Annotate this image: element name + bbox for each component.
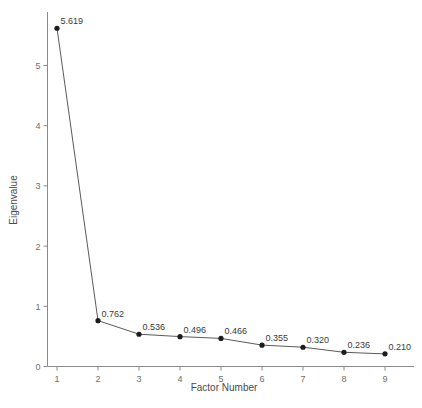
data-point-label: 0.466 [225, 326, 248, 336]
y-tick-label: 2 [35, 242, 40, 252]
x-tick-label: 7 [300, 374, 305, 384]
data-point-label: 0.236 [348, 340, 371, 350]
x-tick-label: 2 [95, 374, 100, 384]
data-point-marker [300, 345, 305, 350]
data-point-label: 5.619 [61, 16, 84, 26]
data-point-marker [259, 343, 264, 348]
x-tick-label: 4 [177, 374, 182, 384]
scree-plot-figure: 012345 Eigenvalue 123456789 Factor Numbe… [0, 0, 422, 408]
x-tick-label: 3 [136, 374, 141, 384]
x-tick-label: 6 [259, 374, 264, 384]
y-tick-label: 0 [35, 362, 40, 372]
y-tick-label: 5 [35, 61, 40, 71]
y-tick-label: 3 [35, 181, 40, 191]
y-axis-title: Eigenvalue [8, 175, 19, 225]
x-tick-label: 1 [54, 374, 59, 384]
data-point-marker [95, 318, 100, 323]
data-point-marker [136, 332, 141, 337]
eigenvalue-scree-chart: 012345 Eigenvalue 123456789 Factor Numbe… [0, 0, 422, 408]
x-tick-label: 8 [341, 374, 346, 384]
x-axis-title: Factor Number [191, 382, 258, 393]
y-tick-label: 1 [35, 302, 40, 312]
data-point-marker [218, 336, 223, 341]
data-point-label: 0.762 [102, 309, 125, 319]
data-point-label: 0.210 [389, 342, 412, 352]
data-point-marker [341, 350, 346, 355]
x-tick-label: 9 [382, 374, 387, 384]
data-point-label: 0.320 [307, 335, 330, 345]
data-point-label: 0.496 [184, 325, 207, 335]
data-point-marker [382, 351, 387, 356]
data-point-marker [54, 26, 59, 31]
data-point-marker [177, 334, 182, 339]
y-tick-label: 4 [35, 121, 40, 131]
data-point-label: 0.536 [143, 322, 166, 332]
data-point-label: 0.355 [266, 333, 289, 343]
